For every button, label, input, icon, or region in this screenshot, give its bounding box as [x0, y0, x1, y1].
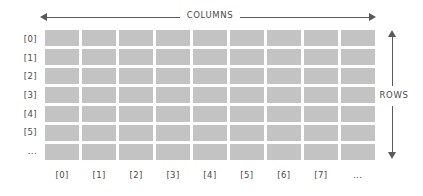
grid-cell	[230, 30, 264, 46]
column-index-label: ...	[341, 166, 375, 184]
grid-cell	[230, 144, 264, 160]
grid	[45, 30, 375, 160]
grid-cell	[267, 30, 301, 46]
rows-arrow-top-line	[392, 36, 393, 86]
grid-cell	[304, 144, 338, 160]
rows-arrow-bottom-line	[392, 106, 393, 156]
grid-cell	[193, 30, 227, 46]
columns-arrow-right-line	[240, 17, 370, 18]
grid-cell	[304, 125, 338, 141]
grid-cell	[267, 87, 301, 103]
grid-cell	[82, 87, 116, 103]
grid-cell	[156, 144, 190, 160]
grid-cell	[45, 87, 79, 103]
rows-axis-label: ROWS	[372, 90, 416, 100]
grid-cell	[156, 87, 190, 103]
grid-cell	[119, 144, 153, 160]
grid-cell	[82, 30, 116, 46]
grid-cell	[230, 49, 264, 65]
grid-cell	[230, 106, 264, 122]
grid-cell	[341, 106, 375, 122]
grid-cell	[341, 68, 375, 84]
grid-cell	[119, 87, 153, 103]
row-index-label: [0]	[0, 30, 41, 49]
grid-cell	[341, 49, 375, 65]
grid-cell	[156, 106, 190, 122]
grid-cell	[267, 106, 301, 122]
grid-cell	[304, 68, 338, 84]
column-index-label: [7]	[304, 166, 338, 184]
grid-cell	[230, 87, 264, 103]
grid-cell	[156, 68, 190, 84]
grid-cell	[267, 144, 301, 160]
row-index-label: [4]	[0, 104, 41, 123]
grid-cell	[156, 125, 190, 141]
grid-cell	[267, 68, 301, 84]
grid-cell	[119, 49, 153, 65]
grid-cell	[193, 87, 227, 103]
row-index-label: [1]	[0, 49, 41, 68]
grid-cell	[45, 49, 79, 65]
column-index-label: [2]	[119, 166, 153, 184]
column-index-label: [0]	[45, 166, 79, 184]
grid-cell	[82, 106, 116, 122]
grid-cell	[45, 30, 79, 46]
grid-cell	[304, 30, 338, 46]
grid-cell	[119, 106, 153, 122]
grid-cell	[341, 30, 375, 46]
column-index-label: [3]	[156, 166, 190, 184]
columns-arrow-right-head	[369, 13, 376, 21]
grid-cell	[119, 125, 153, 141]
grid-cell	[193, 49, 227, 65]
row-index-labels: [0][1][2][3][4][5]...	[0, 30, 41, 160]
row-index-label: [2]	[0, 67, 41, 86]
column-index-label: [4]	[193, 166, 227, 184]
column-index-label: [1]	[82, 166, 116, 184]
grid-cell	[193, 144, 227, 160]
grid-cell	[119, 68, 153, 84]
grid-cell	[267, 125, 301, 141]
row-index-label: [3]	[0, 86, 41, 105]
grid-cell	[82, 49, 116, 65]
grid-cell	[156, 49, 190, 65]
column-index-label: [6]	[267, 166, 301, 184]
grid-cell	[45, 106, 79, 122]
column-index-labels: [0][1][2][3][4][5][6][7]...	[45, 166, 375, 184]
row-index-label: ...	[0, 141, 41, 160]
grid-cell	[156, 30, 190, 46]
grid-cell	[193, 125, 227, 141]
columns-axis-label: COLUMNS	[160, 10, 260, 20]
grid-cell	[341, 87, 375, 103]
grid-cell	[193, 68, 227, 84]
grid-cell	[230, 68, 264, 84]
grid-cell	[119, 30, 153, 46]
grid-cell	[304, 49, 338, 65]
grid-cell	[267, 49, 301, 65]
row-index-label: [5]	[0, 123, 41, 142]
grid-cell	[45, 68, 79, 84]
grid-cell	[82, 125, 116, 141]
matrix-index-diagram: COLUMNS ROWS [0][1][2][3][4][5]... [0][1…	[0, 0, 423, 196]
grid-cell	[341, 144, 375, 160]
grid-cell	[304, 106, 338, 122]
rows-arrow-down-head	[388, 152, 396, 159]
grid-cell	[45, 125, 79, 141]
grid-cell	[193, 106, 227, 122]
grid-cell	[82, 68, 116, 84]
grid-cell	[45, 144, 79, 160]
grid-cell	[304, 87, 338, 103]
grid-cell	[230, 125, 264, 141]
grid-cell	[82, 144, 116, 160]
column-index-label: [5]	[230, 166, 264, 184]
grid-cell	[341, 125, 375, 141]
